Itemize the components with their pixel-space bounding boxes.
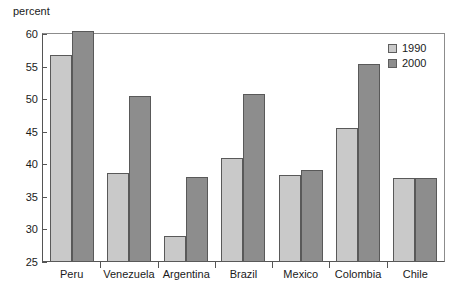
legend-label-2000: 2000 [402,58,426,69]
bar-chile-2000 [415,178,437,262]
bar-group [43,34,100,262]
bar-brazil-2000 [243,94,265,262]
x-axis-tick-label: Chile [403,268,428,281]
legend-item-1990: 1990 [388,41,438,56]
legend: 1990 2000 [384,38,442,75]
y-axis-tick-label: 50 [26,94,38,105]
bar-peru-2000 [72,31,94,262]
bar-peru-1990 [50,55,72,262]
bar-group [158,34,215,262]
y-axis-tick-mark [42,262,47,263]
y-axis-tick-label: 25 [26,257,38,268]
legend-item-2000: 2000 [388,56,438,71]
bar-mexico-2000 [301,170,323,262]
y-axis-tick-label: 60 [26,29,38,40]
x-axis-tick-label: Peru [60,268,83,281]
bar-brazil-1990 [221,158,243,262]
bar-group [100,34,157,262]
x-axis-tick-label: Brazil [230,268,258,281]
bar-colombia-1990 [336,128,358,262]
legend-swatch-1990-icon [388,44,397,53]
legend-label-1990: 1990 [402,43,426,54]
y-axis-ticks: 2530354045505560 [0,0,38,299]
x-axis-tick-mark [329,262,330,268]
bar-group [329,34,386,262]
bar-mexico-1990 [279,175,301,262]
x-axis-tick-mark [158,262,159,268]
x-axis-tick-mark [215,262,216,268]
x-axis-tick-label: Venezuela [103,268,154,281]
y-axis-tick-label: 55 [26,61,38,72]
x-axis-tick-label: Mexico [283,268,318,281]
x-axis-tick-mark [100,262,101,268]
bar-group [272,34,329,262]
bar-group [215,34,272,262]
y-axis-tick-label: 35 [26,191,38,202]
bar-chile-1990 [393,178,415,262]
bar-venezuela-1990 [107,173,129,262]
x-axis-tick-label: Colombia [335,268,381,281]
legend-swatch-2000-icon [388,59,397,68]
x-axis-tick-label: Argentina [163,268,210,281]
bar-argentina-1990 [164,236,186,262]
bar-venezuela-2000 [129,96,151,262]
y-axis-tick-label: 40 [26,159,38,170]
x-axis-tick-mark [272,262,273,268]
bar-argentina-2000 [186,177,208,262]
x-axis-tick-mark [387,262,388,268]
bar-colombia-2000 [358,64,380,262]
y-axis-tick-label: 45 [26,126,38,137]
bar-chart: percent 2530354045505560 PeruVenezuelaAr… [0,0,449,299]
y-axis-tick-label: 30 [26,224,38,235]
